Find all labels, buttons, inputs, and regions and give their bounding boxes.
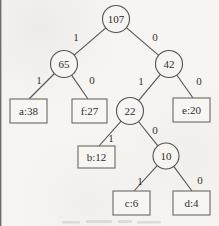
leaf-node-d: d:4 [173,191,210,215]
edge-65-f [72,75,88,99]
edge-bit-label: 1 [36,74,42,86]
edge-bit-label: 0 [89,74,95,86]
huffman-tree-figure: 1 0 1 0 1 0 1 0 1 0 107 65 42 22 10 [0,0,219,226]
internal-node-42: 42 [156,51,183,78]
leaf-value: c:6 [125,197,139,209]
internal-node-22: 22 [117,98,144,125]
node-value: 107 [108,13,125,25]
leaf-value: d:4 [184,197,199,209]
edge-bit-label: 1 [138,75,144,87]
leaf-node-c: c:6 [113,191,150,215]
node-value: 22 [125,105,136,117]
edge-bit-label: 0 [197,174,203,186]
node-value: 65 [59,58,71,70]
leaf-node-a: a:38 [10,99,47,123]
internal-node-107: 107 [103,6,130,33]
edge-bit-label: 1 [108,132,114,144]
leaf-node-f: f:27 [72,99,107,123]
edge-10-d [174,166,192,191]
node-value: 10 [161,150,173,162]
node-value: 42 [164,58,175,70]
edge-bit-label: 1 [73,31,79,43]
edge-107-65 [74,28,106,55]
edge-65-a [29,74,55,100]
leaf-node-b: b:12 [78,146,115,168]
internal-node-10: 10 [153,143,179,169]
internal-node-65: 65 [51,51,78,78]
leaf-node-e: e:20 [173,98,210,122]
edge-bit-label: 1 [137,175,143,187]
edge-bit-label: 0 [152,31,158,43]
leaf-value: b:12 [87,151,107,163]
scanned-figure-page: 1 0 1 0 1 0 1 0 1 0 107 65 42 22 10 [0,0,219,226]
caption-remnant [62,220,161,224]
leaf-value: f:27 [81,105,99,117]
edge-bit-label: 0 [152,124,158,136]
edge-bit-label: 0 [196,75,202,87]
edge-42-e [177,75,193,98]
leaf-value: e:20 [182,104,201,116]
leaf-value: a:38 [19,105,38,117]
